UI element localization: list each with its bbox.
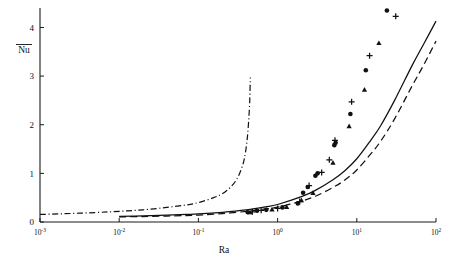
- y-tick-labels: 01234: [30, 23, 35, 228]
- x-tick-label: 102: [431, 227, 442, 237]
- data-point-circle: [301, 191, 306, 196]
- y-tick-label: 0: [30, 217, 35, 227]
- x-axis-ticks: [40, 218, 436, 222]
- data-point-circle: [348, 112, 353, 117]
- dash-dot-curve: [40, 78, 250, 215]
- data-point-triangle: [362, 87, 367, 92]
- x-tick-label: 101: [352, 227, 363, 237]
- triangle-markers: [248, 40, 382, 214]
- curves-layer: [40, 21, 436, 217]
- x-tick-label: 100: [272, 227, 283, 237]
- chart-figure: 10-310-210-1100101102 01234 Nu Ra: [0, 0, 449, 260]
- data-point-plus: [367, 53, 373, 59]
- x-tick-label: 10-2: [113, 227, 125, 237]
- data-point-plus: [326, 157, 332, 163]
- x-axis-title-text: Ra: [219, 245, 230, 255]
- y-tick-label: 4: [30, 23, 35, 33]
- data-point-circle: [280, 205, 285, 210]
- data-point-triangle: [330, 160, 335, 165]
- y-tick-label: 2: [30, 120, 35, 130]
- y-axis-title: Nu: [16, 45, 32, 56]
- solid-curve: [119, 21, 436, 216]
- x-tick-label: 10-3: [34, 227, 46, 237]
- data-point-triangle: [347, 124, 352, 129]
- y-axis-title-text: Nu: [18, 45, 30, 55]
- data-point-circle: [264, 208, 269, 213]
- x-tick-labels: 10-310-210-1100101102: [34, 227, 441, 237]
- y-tick-label: 1: [30, 169, 35, 179]
- data-point-plus: [349, 99, 355, 105]
- x-tick-label: 10-1: [192, 227, 204, 237]
- y-axis-ticks: [40, 27, 44, 222]
- data-point-plus: [275, 205, 281, 211]
- data-point-circle: [364, 68, 369, 73]
- data-point-circle: [385, 8, 390, 13]
- data-point-circle: [333, 140, 338, 145]
- markers-layer: [245, 8, 398, 215]
- y-tick-label: 3: [30, 71, 35, 81]
- dashed-curve: [119, 41, 436, 217]
- plus-markers: [249, 13, 398, 215]
- axes-layer: [40, 8, 436, 222]
- data-point-circle: [315, 171, 320, 176]
- circle-markers: [245, 8, 389, 214]
- labels-layer: 10-310-210-1100101102 01234 Nu Ra: [16, 23, 441, 255]
- data-point-plus: [393, 13, 399, 19]
- data-point-triangle: [376, 40, 381, 45]
- nusselt-rayleigh-chart: 10-310-210-1100101102 01234 Nu Ra: [0, 0, 449, 260]
